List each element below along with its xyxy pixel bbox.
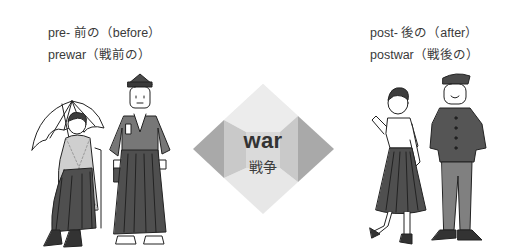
student-in-gakuran (430, 74, 486, 240)
woman-in-pleated-skirt (370, 88, 426, 244)
postwar-illustration (0, 0, 516, 252)
